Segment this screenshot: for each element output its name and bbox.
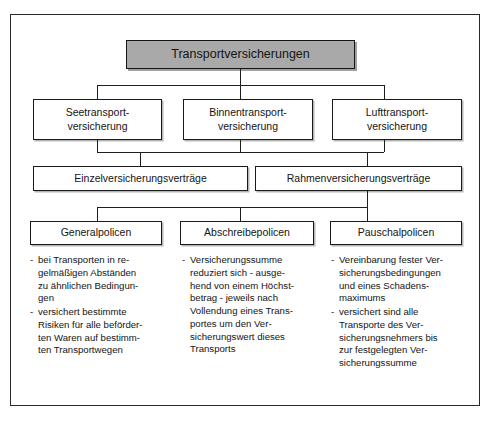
connector-level4-bar bbox=[97, 207, 368, 208]
detail-block-generalpolicen: - bei Transporten in re- gelmäßigen Abst… bbox=[30, 254, 178, 358]
connector-title-down bbox=[240, 69, 241, 85]
node-label-line2: versicherung bbox=[367, 120, 427, 134]
detail-text: bei Transporten in re- gelmäßigen Abstän… bbox=[38, 254, 178, 305]
connector-level4-left bbox=[97, 207, 98, 221]
detail-list-item: - versichert bestimmte Risiken für alle … bbox=[30, 306, 178, 357]
node-label-line1: Seetransport- bbox=[66, 106, 130, 120]
detail-block-abschreibepolicen: - Versicherungssumme reduziert sich - au… bbox=[182, 254, 332, 357]
node-label: Pauschalpolicen bbox=[358, 226, 434, 240]
node-label-line1: Binnentransport- bbox=[209, 106, 287, 120]
connector-level3-left bbox=[140, 152, 141, 166]
detail-block-pauschalpolicen: - Vereinbarung fester Ver- sicherungsbed… bbox=[331, 254, 481, 371]
diagram-canvas: Transportversicherungen Seetransport- ve… bbox=[0, 0, 492, 425]
detail-text: versichert sind alle Transporte des Ver-… bbox=[339, 306, 481, 370]
node-label: Einzelversicherungsverträge bbox=[74, 172, 206, 186]
bullet-dash: - bbox=[30, 254, 38, 267]
node-seetransportversicherung: Seetransport- versicherung bbox=[33, 99, 162, 140]
node-binnentransportversicherung: Binnentransport- versicherung bbox=[183, 99, 313, 140]
node-label: Generalpolicen bbox=[61, 226, 132, 240]
detail-list-item: - Versicherungssumme reduziert sich - au… bbox=[182, 254, 332, 356]
bullet-dash: - bbox=[331, 306, 339, 319]
bullet-dash: - bbox=[331, 254, 339, 267]
node-label-line1: Lufttransport- bbox=[366, 106, 428, 120]
connector-binnen-down bbox=[240, 140, 241, 152]
node-rahmenversicherungsvertraege: Rahmenversicherungsverträge bbox=[255, 166, 462, 191]
connector-level4-mid bbox=[240, 207, 241, 221]
connector-luft-down bbox=[384, 140, 385, 152]
node-label: Transportversicherungen bbox=[171, 46, 310, 63]
detail-text: Versicherungssumme reduziert sich - ausg… bbox=[190, 254, 332, 356]
node-einzelversicherungsvertraege: Einzelversicherungsverträge bbox=[33, 166, 248, 191]
connector-level2-left bbox=[97, 85, 98, 99]
node-label: Rahmenversicherungsverträge bbox=[287, 172, 431, 186]
detail-text: versichert bestimmte Risiken für alle be… bbox=[38, 306, 178, 357]
connector-level2-mid bbox=[240, 85, 241, 99]
detail-text: Vereinbarung fester Ver- sicherungsbedin… bbox=[339, 254, 481, 305]
detail-list-item: - Vereinbarung fester Ver- sicherungsbed… bbox=[331, 254, 481, 305]
node-generalpolicen: Generalpolicen bbox=[30, 221, 162, 245]
node-lufttransportversicherung: Lufttransport- versicherung bbox=[332, 99, 462, 140]
connector-see-down bbox=[97, 140, 98, 152]
node-abschreibepolicen: Abschreibepolicen bbox=[180, 221, 314, 245]
node-label-line2: versicherung bbox=[67, 120, 127, 134]
detail-list-item: - bei Transporten in re- gelmäßigen Abst… bbox=[30, 254, 178, 305]
node-label: Abschreibepolicen bbox=[204, 226, 290, 240]
connector-rahmen-down bbox=[367, 191, 368, 207]
node-transportversicherungen: Transportversicherungen bbox=[126, 40, 355, 69]
connector-level3-right bbox=[367, 152, 368, 166]
node-label-line2: versicherung bbox=[218, 120, 278, 134]
bullet-dash: - bbox=[182, 254, 190, 267]
detail-list-item: - versichert sind alle Transporte des Ve… bbox=[331, 306, 481, 370]
connector-level2-right bbox=[384, 85, 385, 99]
node-pauschalpolicen: Pauschalpolicen bbox=[330, 221, 462, 245]
bullet-dash: - bbox=[30, 306, 38, 319]
connector-level4-right bbox=[367, 207, 368, 221]
